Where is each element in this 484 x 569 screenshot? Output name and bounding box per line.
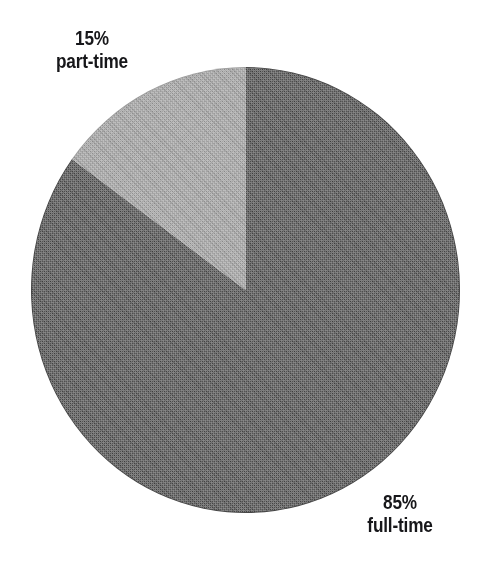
pie-chart-graphic [31, 67, 460, 513]
pie-label-full-time-name: full-time [359, 514, 442, 537]
pie-chart-figure: 15% part-time 85% full-time [0, 0, 484, 569]
pie-label-part-time: 15% part-time [51, 27, 134, 73]
pie-svg [31, 67, 460, 513]
pie-label-full-time-percent: 85% [359, 491, 442, 514]
pie-label-full-time: 85% full-time [359, 491, 442, 537]
pie-label-part-time-percent: 15% [51, 27, 134, 50]
pie-label-part-time-name: part-time [51, 50, 134, 73]
